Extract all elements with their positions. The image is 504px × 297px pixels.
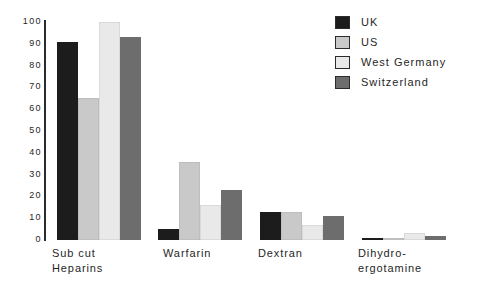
y-axis-tick-labels: 0102030405060708090100 bbox=[0, 0, 42, 297]
y-axis-tick-label: 60 bbox=[6, 104, 42, 113]
bar-group bbox=[57, 22, 141, 240]
bar bbox=[260, 212, 281, 240]
bar bbox=[120, 37, 141, 240]
legend-label: UK bbox=[361, 16, 378, 28]
legend-swatch-icon bbox=[335, 56, 350, 69]
legend-item[interactable]: US bbox=[335, 32, 446, 52]
y-axis-tick-label: 80 bbox=[6, 61, 42, 70]
legend-swatch-icon bbox=[335, 16, 350, 29]
bar bbox=[281, 212, 302, 240]
x-axis-category-label: Sub cut Heparins bbox=[52, 246, 103, 276]
bar bbox=[362, 238, 383, 240]
bar bbox=[99, 22, 120, 240]
bar bbox=[57, 42, 78, 240]
y-axis-tick-label: 50 bbox=[6, 126, 42, 135]
bar bbox=[302, 225, 323, 240]
y-axis-tick-label: 10 bbox=[6, 213, 42, 222]
x-axis-category-label: Dextran bbox=[258, 246, 303, 261]
bar bbox=[383, 238, 404, 240]
x-axis-category-label: Dihydro- ergotamine bbox=[358, 246, 422, 276]
bar bbox=[179, 162, 200, 240]
legend-swatch-icon bbox=[335, 76, 350, 89]
legend-swatch-icon bbox=[335, 36, 350, 49]
legend-item[interactable]: UK bbox=[335, 12, 446, 32]
bar-group bbox=[260, 22, 344, 240]
legend-item[interactable]: West Germany bbox=[335, 52, 446, 72]
bar bbox=[158, 229, 179, 240]
y-axis-tick-label: 30 bbox=[6, 170, 42, 179]
y-axis-tick-label: 100 bbox=[6, 17, 42, 26]
bar-group bbox=[158, 22, 242, 240]
bar bbox=[78, 98, 99, 240]
legend: UKUSWest GermanySwitzerland bbox=[335, 12, 446, 92]
y-axis-tick-label: 0 bbox=[6, 235, 42, 244]
bar bbox=[323, 216, 344, 240]
y-axis-tick-label: 90 bbox=[6, 39, 42, 48]
bar bbox=[404, 233, 425, 240]
y-axis-tick-label: 20 bbox=[6, 191, 42, 200]
legend-label: Switzerland bbox=[361, 76, 429, 88]
bar bbox=[200, 205, 221, 240]
bar-chart: 0102030405060708090100 Sub cut HeparinsW… bbox=[0, 0, 504, 297]
y-axis-tick-label: 70 bbox=[6, 82, 42, 91]
legend-label: West Germany bbox=[361, 56, 446, 68]
y-axis-tick-label: 40 bbox=[6, 148, 42, 157]
bar bbox=[221, 190, 242, 240]
legend-item[interactable]: Switzerland bbox=[335, 72, 446, 92]
legend-label: US bbox=[361, 36, 378, 48]
x-axis-category-label: Warfarin bbox=[163, 246, 211, 261]
bar bbox=[425, 236, 446, 240]
